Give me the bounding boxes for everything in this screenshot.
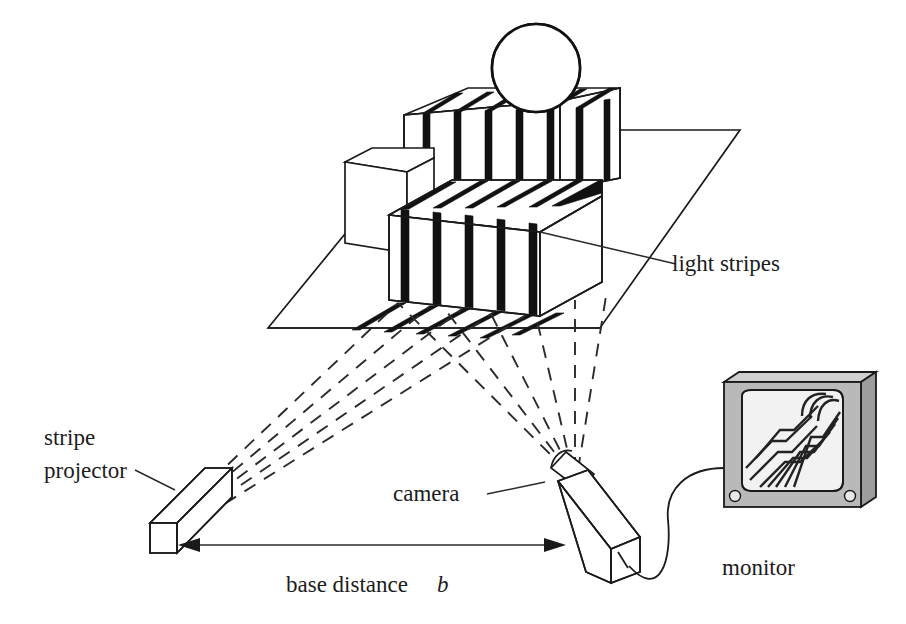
label-light-stripes: light stripes	[672, 251, 780, 276]
label-stripe-projector-line2: projector	[44, 458, 127, 483]
monitor-device	[724, 372, 876, 507]
label-stripe-projector-line1: stripe	[44, 425, 95, 450]
label-monitor: monitor	[722, 555, 795, 580]
camera-rays	[398, 290, 607, 470]
camera-device	[551, 450, 640, 583]
main-striped-box	[389, 180, 602, 316]
stripe-projector-device	[150, 468, 232, 553]
camera-monitor-cable	[629, 468, 724, 579]
figure-root: light stripes stripe projector camera mo…	[0, 0, 906, 624]
label-base-distance-symbol: b	[437, 572, 449, 597]
label-base-distance: base distance	[286, 572, 408, 597]
monitor-screw-left	[730, 491, 741, 502]
structured-light-diagram: light stripes stripe projector camera mo…	[0, 0, 906, 624]
striped-sphere	[492, 24, 580, 112]
label-camera: camera	[393, 481, 459, 506]
monitor-screw-right	[845, 491, 856, 502]
base-distance-dimension	[178, 538, 566, 552]
arrowhead-right	[544, 538, 566, 552]
